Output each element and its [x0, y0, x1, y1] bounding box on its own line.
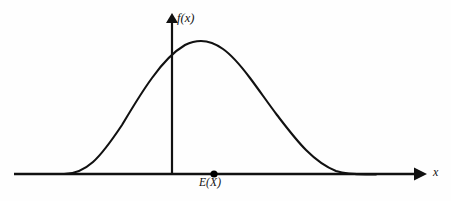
density-curve	[64, 41, 376, 175]
figure-canvas	[0, 0, 451, 201]
density-curve-figure: f(x) x E(X)	[0, 0, 451, 201]
y-axis-label: f(x)	[177, 12, 194, 25]
x-axis-label: x	[433, 166, 438, 178]
mean-marker-label: E(X)	[199, 177, 221, 189]
arrow-right-icon	[414, 168, 427, 181]
